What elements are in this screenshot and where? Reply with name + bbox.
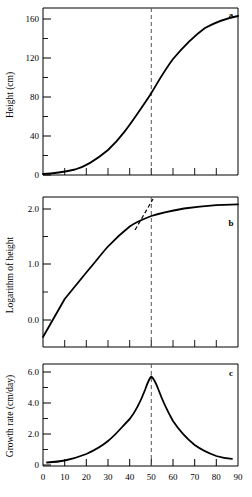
panel-a-height-curve [43,16,238,174]
xtick-10: 10 [60,472,70,482]
xtick-50: 50 [147,472,157,482]
xtick-60: 60 [169,472,179,482]
panel-c-growth-rate: Growth rate (cm/day) 6.0 4.0 2.0 0 [0,358,252,497]
panel-c-ytick-2: 2.0 [28,429,40,439]
xtick-30: 30 [104,472,114,482]
growth-curves-figure: Height (cm) 160 [0,0,252,497]
xtick-0: 0 [41,472,46,482]
panel-b-log-curve [43,204,238,337]
panel-b-tangent-line [135,199,153,230]
x-axis-tick-labels: 0 10 20 30 40 50 60 70 80 90 [41,472,243,482]
panel-b-ytick-2: 2.0 [28,204,40,214]
panel-a-ytick-40: 40 [30,131,40,141]
panel-c-ytick-4: 4.0 [28,398,40,408]
xtick-80: 80 [212,472,222,482]
panel-c-letter: c [229,368,233,378]
panel-c-svg: Growth rate (cm/day) 6.0 4.0 2.0 0 [0,358,252,497]
xtick-70: 70 [190,472,200,482]
panel-a-y-tick-labels: 160 120 80 40 0 [26,14,40,180]
panel-a-letter: a [229,10,234,20]
panel-a-y-major-ticks [43,19,51,175]
xtick-20: 20 [82,472,92,482]
panel-a-ytick-160: 160 [26,14,40,24]
panel-a-y-axis-title: Height (cm) [5,72,16,118]
panel-b-y-major-ticks [43,209,51,320]
panel-b-y-tick-labels: 2.0 1.0 0.0 [28,204,40,325]
panel-c-y-minor-ticks [43,388,48,450]
panel-c-x-ticks [65,459,217,466]
panel-b-ytick-0: 0.0 [28,315,40,325]
panel-b-x-ticks [65,340,217,347]
panel-c-y-axis-title: Growth rate (cm/day) [5,375,16,457]
panel-c-ytick-6: 6.0 [28,367,40,377]
panel-c-growth-curve [47,377,232,463]
panel-b-ytick-1: 1.0 [28,259,40,269]
panel-b-letter: b [228,218,233,228]
xtick-40: 40 [125,472,135,482]
panel-c-frame [43,364,238,466]
panel-b-y-axis-title: Logarithm of height [5,236,15,313]
panel-a-ytick-80: 80 [30,92,40,102]
panel-c-y-tick-labels: 6.0 4.0 2.0 0 [28,367,40,470]
panel-a-x-ticks [65,168,217,175]
panel-a-ytick-0: 0 [35,170,40,180]
panel-b-log-height: Logarithm of height 2.0 1.0 0.0 [0,190,252,362]
panel-a-svg: Height (cm) 160 [0,0,252,180]
panel-b-svg: Logarithm of height 2.0 1.0 0.0 [0,190,252,362]
panel-a-ytick-120: 120 [26,53,40,63]
xtick-90: 90 [234,472,244,482]
panel-a-height: Height (cm) 160 [0,0,252,180]
panel-a-frame [43,8,238,175]
panel-c-ytick-0: 0 [35,460,40,470]
